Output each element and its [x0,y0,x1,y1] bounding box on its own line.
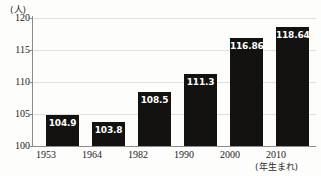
x-tick-label: 2000 [207,149,253,160]
x-axis-unit-label: (年生まれ) [255,160,298,173]
x-tick-label: 1990 [161,149,207,160]
bar-chart: (人) 120 115 110 105 100 104.9 103.8 108.… [0,0,321,176]
x-tick-label: 1964 [69,149,115,160]
x-tick-label: 2010 [253,149,299,160]
x-tick-label: 1953 [23,149,69,160]
x-tick-label: 1982 [115,149,161,160]
x-axis-tick-labels: 1953 1964 1982 1990 2000 2010 [0,0,321,176]
